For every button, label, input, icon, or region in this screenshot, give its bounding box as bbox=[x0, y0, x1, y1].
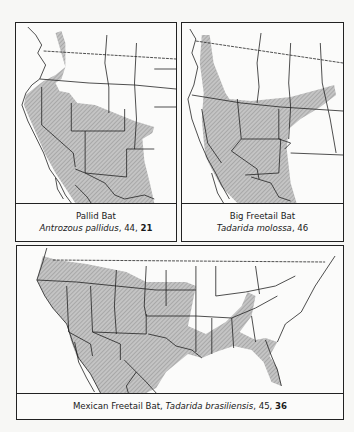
range-map-pallid-bat: Pallid Bat Antrozous pallidus, 44, 21 bbox=[15, 22, 177, 242]
map-caption: Big Freetail Bat Tadarida molossa, 46 bbox=[182, 202, 343, 241]
range-map-mexican-freetail-bat: Mexican Freetail Bat, Tadarida brasilien… bbox=[16, 245, 344, 420]
scientific-name: Tadarida brasiliensis bbox=[166, 401, 254, 411]
map-image bbox=[182, 23, 343, 204]
common-name: Mexican Freetail Bat bbox=[73, 401, 160, 411]
map-image bbox=[16, 23, 176, 204]
plate-ref: 36 bbox=[275, 401, 287, 411]
scientific-name: Antrozous pallidus bbox=[39, 223, 118, 233]
common-name: Big Freetail Bat bbox=[230, 211, 295, 221]
scientific-name: Tadarida molossa bbox=[217, 223, 292, 233]
map-caption: Pallid Bat Antrozous pallidus, 44, 21 bbox=[16, 202, 176, 241]
range-map-big-freetail-bat: Big Freetail Bat Tadarida molossa, 46 bbox=[181, 22, 344, 242]
plate-ref: 21 bbox=[141, 223, 153, 233]
map-image bbox=[17, 246, 343, 394]
page-ref: 44 bbox=[124, 223, 135, 233]
page-ref: 46 bbox=[297, 223, 308, 233]
common-name: Pallid Bat bbox=[76, 211, 116, 221]
page-ref: 45 bbox=[259, 401, 270, 411]
map-caption: Mexican Freetail Bat, Tadarida brasilien… bbox=[17, 392, 343, 419]
